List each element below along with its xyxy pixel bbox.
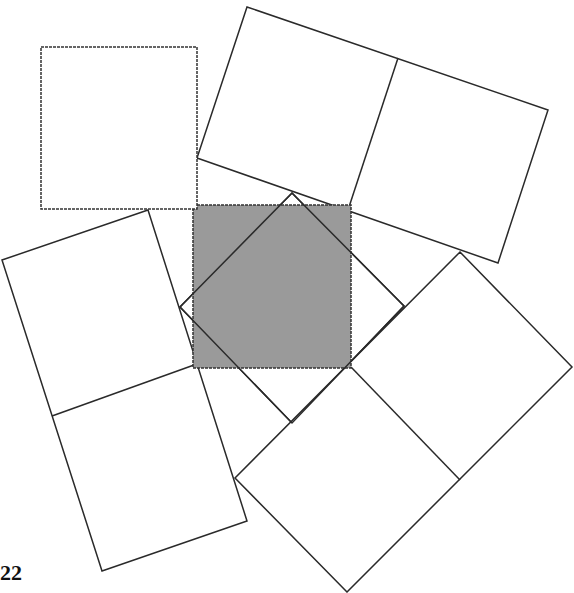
tiling-diagram — [0, 0, 574, 593]
figure-label: 22 — [0, 560, 22, 586]
top-left-square — [41, 47, 197, 209]
